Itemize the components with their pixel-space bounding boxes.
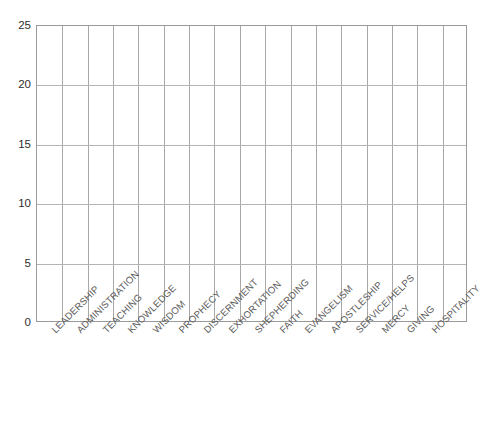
vertical-gridline [316,26,317,321]
y-axis-tick-label: 5 [1,257,31,269]
vertical-gridline [341,26,342,321]
vertical-gridline [417,26,418,321]
y-axis-tick-labels: 0510152025 [0,25,31,322]
vertical-gridline [62,26,63,321]
vertical-gridline [189,26,190,321]
y-axis-tick-label: 0 [1,316,31,328]
vertical-gridline [443,26,444,321]
vertical-gridline [113,26,114,321]
vertical-gridline [164,26,165,321]
vertical-gridline [240,26,241,321]
vertical-gridline [214,26,215,321]
vertical-gridline [265,26,266,321]
horizontal-gridline [37,264,466,265]
horizontal-gridline [37,145,466,146]
horizontal-gridline [37,204,466,205]
y-axis-tick-label: 10 [1,197,31,209]
cropped-header-remnant [6,0,426,8]
x-axis-category-labels: LEADERSHIPADMINISTRATIONTEACHINGKNOWLEDG… [36,322,467,446]
vertical-gridline [392,26,393,321]
vertical-gridline [291,26,292,321]
horizontal-gridline [37,85,466,86]
y-axis-tick-label: 20 [1,78,31,90]
vertical-gridline [367,26,368,321]
spiritual-gifts-chart: 0510152025 LEADERSHIPADMINISTRATIONTEACH… [0,0,485,446]
y-axis-tick-label: 15 [1,138,31,150]
y-axis-tick-label: 25 [1,19,31,31]
vertical-gridline [88,26,89,321]
